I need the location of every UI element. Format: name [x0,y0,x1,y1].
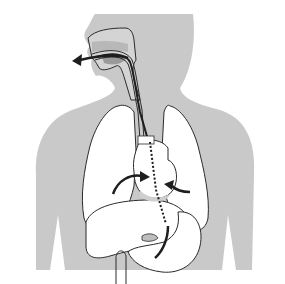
anatomy-diagram [0,0,285,284]
tube-collar [138,136,154,144]
exhale-arrow-head [72,54,82,66]
anatomy-svg [0,0,285,284]
